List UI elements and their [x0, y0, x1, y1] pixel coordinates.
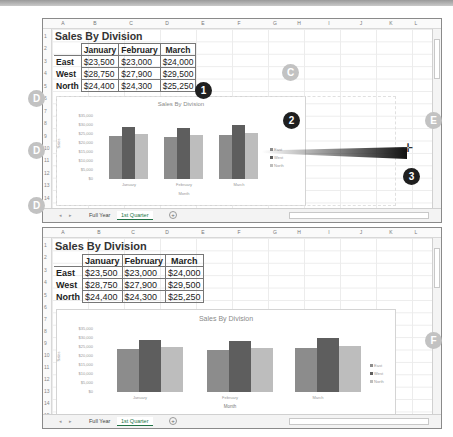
- tab-scroll-right-icon[interactable]: ▸: [69, 212, 72, 218]
- tab-1st-quarter[interactable]: 1st Quarter: [117, 211, 153, 220]
- row-4[interactable]: 4: [44, 70, 47, 76]
- row-label-west[interactable]: West: [54, 68, 81, 80]
- header-february[interactable]: February: [119, 44, 160, 56]
- col-d[interactable]: D: [149, 229, 185, 235]
- row-1[interactable]: 1: [44, 242, 47, 248]
- col-l[interactable]: L: [398, 20, 434, 26]
- cell[interactable]: $23,500: [81, 56, 119, 68]
- add-sheet-icon[interactable]: +: [169, 211, 177, 219]
- header-january[interactable]: January: [83, 255, 123, 267]
- col-e[interactable]: E: [185, 229, 221, 235]
- row-9[interactable]: 9: [44, 133, 47, 139]
- row-10[interactable]: 10: [44, 352, 50, 358]
- cell[interactable]: $28,750: [83, 279, 123, 291]
- header-march[interactable]: March: [166, 255, 204, 267]
- cell[interactable]: $23,500: [83, 267, 123, 279]
- vertical-scrollbar[interactable]: [432, 238, 441, 414]
- row-2[interactable]: 2: [44, 45, 47, 51]
- cell[interactable]: $24,300: [122, 291, 166, 303]
- row-8[interactable]: 8: [44, 120, 47, 126]
- row-label-east[interactable]: East: [54, 56, 81, 68]
- header-february[interactable]: February: [122, 255, 166, 267]
- cell[interactable]: $27,900: [119, 68, 160, 80]
- sheet-title-cell[interactable]: Sales By Division: [55, 30, 143, 42]
- col-a[interactable]: A: [53, 20, 73, 26]
- col-f[interactable]: F: [221, 20, 257, 26]
- cell[interactable]: $24,300: [119, 80, 160, 92]
- row-7[interactable]: 7: [44, 316, 47, 322]
- bar-north-march[interactable]: [339, 346, 361, 392]
- cell[interactable]: $24,400: [81, 80, 119, 92]
- cell[interactable]: $24,400: [83, 291, 123, 303]
- col-b[interactable]: B: [81, 229, 117, 235]
- row-7[interactable]: 7: [44, 108, 47, 114]
- row-4[interactable]: 4: [44, 279, 47, 285]
- col-c[interactable]: C: [113, 20, 149, 26]
- row-label-east[interactable]: East: [54, 267, 83, 279]
- col-b[interactable]: B: [77, 20, 113, 26]
- row-14[interactable]: 14: [44, 195, 50, 201]
- tab-scroll-right-icon[interactable]: ▸: [69, 418, 72, 424]
- col-d[interactable]: D: [149, 20, 185, 26]
- col-i[interactable]: I: [311, 229, 347, 235]
- bar-east-january[interactable]: [117, 349, 139, 392]
- bar-east-february[interactable]: [207, 350, 229, 392]
- cell[interactable]: $28,750: [81, 68, 119, 80]
- col-c[interactable]: C: [115, 229, 151, 235]
- chart-title[interactable]: Sales By Division: [57, 315, 395, 322]
- cell[interactable]: $23,000: [122, 267, 166, 279]
- cell[interactable]: $24,000: [166, 267, 204, 279]
- tab-scroll-left-icon[interactable]: ◂: [59, 212, 62, 218]
- row-3[interactable]: 3: [44, 58, 47, 64]
- horizontal-scrollbar[interactable]: [289, 418, 429, 425]
- col-l[interactable]: L: [398, 229, 434, 235]
- row-14[interactable]: 14: [44, 400, 50, 406]
- row-11[interactable]: 11: [44, 157, 49, 163]
- row-13[interactable]: 13: [44, 182, 50, 188]
- row-8[interactable]: 8: [44, 328, 47, 334]
- row-11[interactable]: 11: [44, 364, 49, 370]
- bar-west-january[interactable]: [139, 340, 161, 392]
- bar-north-february[interactable]: [251, 348, 273, 392]
- chart-sales-by-division-resized[interactable]: Sales By Division $35,000 $30,000 $25,00…: [56, 309, 396, 417]
- sheet-title-cell[interactable]: Sales By Division: [55, 240, 147, 252]
- empty-corner-cell[interactable]: [54, 255, 83, 267]
- cell[interactable]: $23,000: [119, 56, 160, 68]
- tab-full-year[interactable]: Full Year: [85, 417, 114, 425]
- vertical-scroll-thumb[interactable]: [434, 39, 440, 79]
- cell[interactable]: $29,500: [160, 68, 196, 80]
- bar-east-march[interactable]: [295, 348, 317, 392]
- col-i[interactable]: I: [311, 20, 347, 26]
- row-label-north[interactable]: North: [54, 291, 83, 303]
- col-e[interactable]: E: [185, 20, 221, 26]
- vertical-scroll-thumb[interactable]: [434, 248, 440, 288]
- row-5[interactable]: 5: [44, 83, 47, 89]
- tab-scroll-left-icon[interactable]: ◂: [59, 418, 62, 424]
- row-12[interactable]: 12: [44, 170, 50, 176]
- empty-corner-cell[interactable]: [54, 44, 81, 56]
- bar-north-january[interactable]: [161, 347, 183, 392]
- col-f[interactable]: F: [221, 229, 257, 235]
- plot-area[interactable]: [99, 328, 359, 392]
- y-axis-title[interactable]: Sales: [56, 351, 61, 361]
- bar-west-march[interactable]: [317, 338, 339, 392]
- header-march[interactable]: March: [160, 44, 196, 56]
- x-axis-title[interactable]: Month: [210, 404, 250, 409]
- cell[interactable]: $27,900: [122, 279, 166, 291]
- bar-west-february[interactable]: [229, 341, 251, 392]
- row-12[interactable]: 12: [44, 376, 50, 382]
- row-label-north[interactable]: North: [54, 80, 81, 92]
- row-13[interactable]: 13: [44, 388, 50, 394]
- cell[interactable]: $29,500: [166, 279, 204, 291]
- row-3[interactable]: 3: [44, 267, 47, 273]
- cell[interactable]: $24,000: [160, 56, 196, 68]
- col-a[interactable]: A: [53, 229, 73, 235]
- row-2[interactable]: 2: [44, 254, 47, 260]
- row-5[interactable]: 5: [44, 292, 47, 298]
- horizontal-scrollbar[interactable]: [289, 212, 429, 219]
- cell[interactable]: $25,250: [160, 80, 196, 92]
- row-label-west[interactable]: West: [54, 279, 83, 291]
- add-sheet-icon[interactable]: +: [169, 417, 177, 425]
- tab-full-year[interactable]: Full Year: [85, 211, 114, 219]
- header-january[interactable]: January: [81, 44, 119, 56]
